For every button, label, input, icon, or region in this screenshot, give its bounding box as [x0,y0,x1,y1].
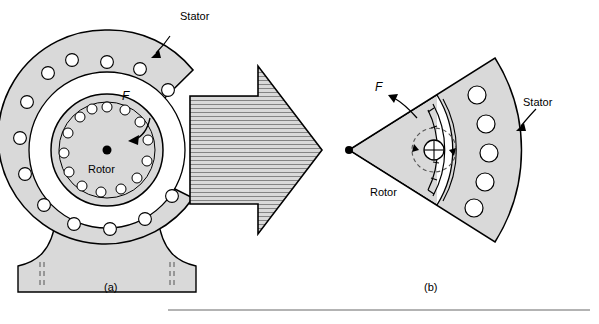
panel-b-drawing [345,58,536,242]
caption-a: (a) [104,281,117,293]
caption-b: (b) [424,281,437,293]
rotor-label-a: Rotor [88,163,115,175]
block-arrow-shape [190,66,322,234]
block-arrow [190,66,322,234]
rotor-center-dot [103,146,112,155]
force-arrow-head-b [388,94,398,103]
figure-container: Stator F Rotor F Stator Rotor (a) (b) [0,0,599,324]
force-label-b: F [375,80,382,94]
force-label-a: F [122,89,129,103]
rotor-center-dot-b [345,146,353,154]
figure-drawing [0,0,599,324]
panel-a-drawing [0,30,196,292]
stator-label-b: Stator [523,96,552,108]
rotor-label-b: Rotor [370,186,397,198]
stator-leader-line-b [521,109,536,126]
stator-label-a: Stator [180,10,209,22]
